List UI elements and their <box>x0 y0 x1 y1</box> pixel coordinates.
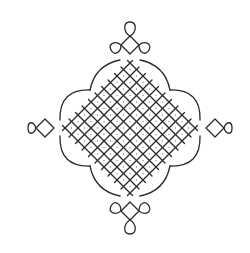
grid-dot <box>116 108 117 109</box>
grid-dot <box>123 88 124 89</box>
grid-dot <box>123 153 124 154</box>
grid-dot <box>155 134 156 135</box>
grid-dot <box>162 114 163 115</box>
loop-petal <box>224 123 232 134</box>
grid-dot <box>123 140 124 141</box>
grid-dot <box>188 127 189 128</box>
diamond-lattice <box>63 61 198 196</box>
grid-dot <box>123 179 124 180</box>
grid-dot <box>77 121 78 122</box>
grid-dot <box>116 147 117 148</box>
grid-dot <box>149 166 150 167</box>
grid-dot <box>110 127 111 128</box>
grid-dot <box>97 101 98 102</box>
grid-dot <box>110 114 111 115</box>
grid-dot <box>142 147 143 148</box>
grid-dot <box>97 140 98 141</box>
grid-dot <box>103 160 104 161</box>
grid-dot <box>84 140 85 141</box>
grid-dot <box>116 121 117 122</box>
grid-dot <box>162 153 163 154</box>
grid-dot <box>155 108 156 109</box>
grid-dot <box>162 140 163 141</box>
grid-dot <box>123 114 124 115</box>
grid-dot <box>181 121 182 122</box>
grid-dot <box>181 134 182 135</box>
grid-dot <box>103 95 104 96</box>
grid-dot <box>90 134 91 135</box>
grid-dot <box>142 134 143 135</box>
grid-dot <box>129 173 130 174</box>
tip-diamond <box>121 202 139 220</box>
grid-dot <box>90 108 91 109</box>
tip-diamond <box>121 36 139 54</box>
grid-dot <box>123 166 124 167</box>
grid-dot <box>149 101 150 102</box>
grid-dot <box>123 75 124 76</box>
grid-dot <box>149 127 150 128</box>
grid-dot <box>136 114 137 115</box>
grid-dot <box>149 153 150 154</box>
tip-diamond <box>36 119 54 137</box>
grid-dot <box>155 160 156 161</box>
grid-dot <box>175 114 176 115</box>
grid-dot <box>162 127 163 128</box>
loop-petal <box>139 203 150 213</box>
grid-dot <box>110 153 111 154</box>
loop-petal <box>110 43 121 53</box>
loop-petal <box>28 123 36 134</box>
grid-dot <box>142 160 143 161</box>
grid-dot <box>90 121 91 122</box>
grid-dot <box>90 147 91 148</box>
loop-petal <box>125 22 136 36</box>
grid-dot <box>149 114 150 115</box>
grid-dot <box>84 127 85 128</box>
grid-dot <box>129 82 130 83</box>
grid-dot <box>142 82 143 83</box>
grid-dot <box>162 101 163 102</box>
grid-dot <box>103 108 104 109</box>
grid-dot <box>155 95 156 96</box>
grid-dot <box>129 134 130 135</box>
grid-dot <box>175 127 176 128</box>
grid-dot <box>136 166 137 167</box>
grid-dot <box>155 121 156 122</box>
grid-dot <box>129 147 130 148</box>
kolam-drawing <box>0 0 250 253</box>
grid-dot <box>103 147 104 148</box>
grid-dot <box>97 127 98 128</box>
grid-dot <box>142 173 143 174</box>
grid-dot <box>77 134 78 135</box>
grid-dot <box>110 88 111 89</box>
grid-dot <box>129 121 130 122</box>
grid-dot <box>129 95 130 96</box>
grid-dot <box>123 127 124 128</box>
grid-dot <box>110 140 111 141</box>
grid-dot <box>136 127 137 128</box>
grid-dot <box>129 186 130 187</box>
grid-dot <box>168 134 169 135</box>
edge-arc <box>60 90 90 120</box>
grid-dot <box>123 101 124 102</box>
grid-dot <box>129 108 130 109</box>
grid-dot <box>110 166 111 167</box>
edge-arc <box>170 90 200 120</box>
loop-petal <box>125 220 136 234</box>
edge-arc <box>170 136 200 166</box>
grid-dot <box>116 134 117 135</box>
grid-dot <box>110 101 111 102</box>
grid-dot <box>149 88 150 89</box>
grid-dot <box>142 108 143 109</box>
tip-diamond <box>206 119 224 137</box>
grid-dot <box>142 95 143 96</box>
grid-dot <box>142 121 143 122</box>
grid-dot <box>97 114 98 115</box>
grid-dot <box>71 127 72 128</box>
grid-dot <box>136 153 137 154</box>
grid-dot <box>129 160 130 161</box>
grid-dot <box>168 108 169 109</box>
grid-dot <box>97 153 98 154</box>
grid-dot <box>116 82 117 83</box>
grid-dot <box>136 179 137 180</box>
grid-dot <box>136 140 137 141</box>
